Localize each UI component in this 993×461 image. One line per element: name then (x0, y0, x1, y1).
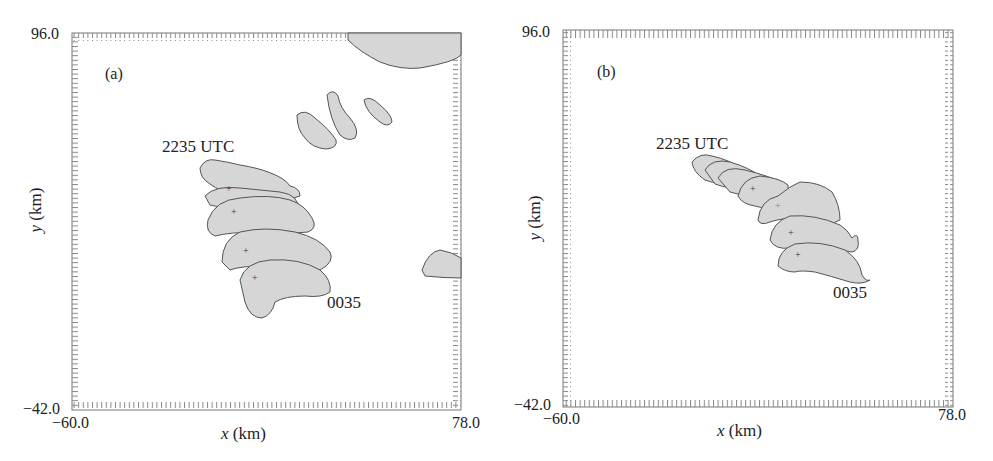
start-time-label: 2235 UTC (656, 134, 728, 154)
x-tick-right: 78.0 (938, 406, 966, 424)
panel-b-plot: + + + + (0, 0, 993, 461)
end-time-label: 0035 (833, 283, 867, 303)
centroid-marker: + (775, 200, 781, 211)
x-tick-left: −60.0 (543, 410, 580, 428)
centroid-marker: + (795, 249, 801, 260)
centroid-marker: + (750, 183, 756, 194)
y-tick-top: 96.0 (522, 23, 550, 41)
y-axis-title: y (km) (525, 196, 545, 241)
x-axis-title: x (km) (717, 421, 762, 441)
centroid-marker: + (788, 227, 794, 238)
panel-b: + + + + (b) 2235 UTC 0035 96.0 −42.0 −60… (0, 0, 993, 461)
panel-label-b: (b) (597, 63, 616, 81)
